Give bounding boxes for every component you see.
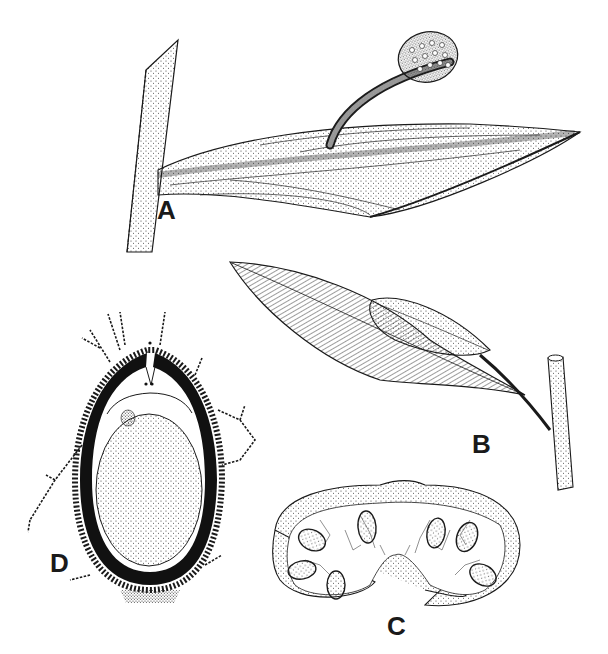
panel-a — [127, 25, 580, 252]
panel-label-a: A — [157, 197, 176, 223]
illustration-canvas — [0, 0, 608, 654]
panel-label-c: C — [387, 613, 406, 639]
panel-label-b: B — [472, 431, 491, 457]
panel-label-d: D — [50, 550, 69, 576]
panel-c — [273, 480, 520, 605]
panel-b — [230, 262, 573, 490]
botanical-plate — [0, 0, 608, 654]
